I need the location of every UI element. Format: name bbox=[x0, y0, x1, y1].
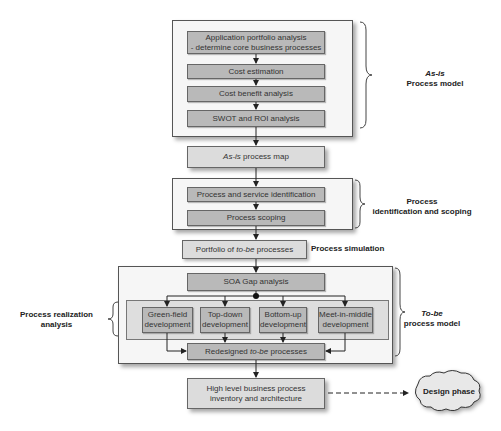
as-is-brace bbox=[360, 22, 372, 128]
realization-brace bbox=[108, 302, 118, 336]
split-node-dot bbox=[253, 293, 259, 299]
identification-brace bbox=[355, 180, 365, 228]
design-phase-label: Design phase bbox=[418, 387, 480, 397]
to-be-brace bbox=[395, 268, 405, 356]
diagram-connectors bbox=[0, 0, 501, 431]
